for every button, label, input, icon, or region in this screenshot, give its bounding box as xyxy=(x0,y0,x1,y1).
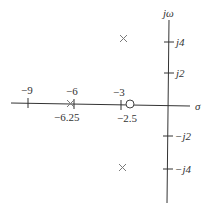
tick-label-minus-j2: −j2 xyxy=(175,130,191,142)
imaginary-axis xyxy=(167,20,169,203)
tick-label-minus-6: −6 xyxy=(66,85,78,97)
tick-label-minus-9: −9 xyxy=(21,84,33,96)
real-axis xyxy=(11,103,190,106)
zero-label: −2.5 xyxy=(117,112,137,124)
tick-label-j4: j4 xyxy=(174,36,185,48)
pole-upper xyxy=(120,35,127,42)
tick-label-j2: j2 xyxy=(174,67,185,79)
jomega-axis-label: jω xyxy=(161,7,174,19)
sigma-axis-label: σ xyxy=(195,100,201,112)
tick-label-minus-j4: −j4 xyxy=(175,163,191,175)
pole-zero-plot: σ jω −9 −6 −3 j4 j2 −j2 −j4 −6.25 −2.5 xyxy=(0,0,212,211)
pole-lower xyxy=(119,164,126,171)
tick-label-minus-3: −3 xyxy=(113,86,125,98)
zero-marker xyxy=(126,100,134,108)
pole-real-label: −6.25 xyxy=(54,111,80,123)
